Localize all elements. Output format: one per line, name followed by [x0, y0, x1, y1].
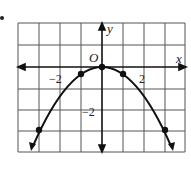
x-axis-label: x — [176, 52, 182, 65]
axes — [18, 23, 186, 152]
origin-label: O — [89, 51, 98, 64]
parabola-graph — [0, 0, 191, 170]
y-tick-neg2: −2 — [82, 106, 95, 118]
y-axis-label: y — [107, 22, 113, 35]
x-tick-pos2: 2 — [139, 73, 145, 85]
x-tick-neg2: −2 — [49, 73, 62, 85]
